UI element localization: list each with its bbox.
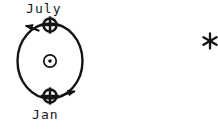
motion-arrow-bottom-icon [62, 90, 76, 96]
label-july: July [26, 2, 62, 15]
earth-symbol-jan [41, 87, 60, 104]
label-jan: Jan [32, 108, 59, 121]
star-asterisk-icon [204, 34, 217, 49]
earth-symbol-july [41, 16, 60, 33]
diagram-canvas: July Jan [0, 0, 218, 133]
sun-symbol [44, 55, 56, 67]
